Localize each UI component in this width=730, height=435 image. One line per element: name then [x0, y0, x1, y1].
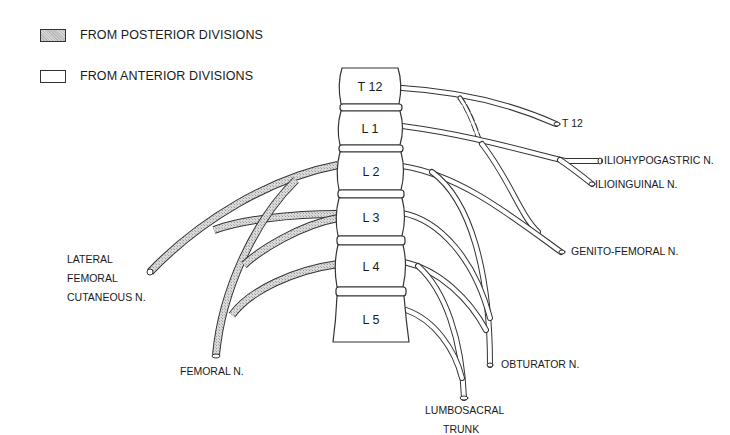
- disc-l4-l5: [336, 287, 406, 296]
- lateral-femoral-end: [147, 269, 153, 275]
- lumbar-plexus-diagram: T 12 L 1 L 2 L 3 L 4 L 5: [0, 0, 730, 435]
- label-lumbosacral-1: LUMBOSACRAL: [425, 401, 504, 420]
- femoral-end: [212, 354, 220, 358]
- vertebral-column: [333, 68, 409, 342]
- vertebra-label-l5: L 5: [363, 313, 380, 327]
- obturator-end: [487, 363, 493, 367]
- label-obturator: OBTURATOR N.: [501, 355, 579, 374]
- nerve-l2-genitofemoral: [402, 166, 561, 252]
- vertebra-label-l2: L 2: [363, 165, 380, 179]
- disc-l1-l2: [339, 145, 403, 152]
- label-lumbosacral-2: TRUNK: [443, 420, 479, 435]
- disc-l2-l3: [338, 190, 404, 198]
- vertebra-label-l4: L 4: [363, 260, 380, 274]
- nerve-l4-femoral: [232, 264, 338, 315]
- label-t12: T 12: [562, 114, 583, 133]
- vertebra-label-t12: T 12: [358, 80, 383, 94]
- label-ilioinguinal: ILIOINGUINAL N.: [595, 175, 677, 194]
- label-iliohypogastric: ILIOHYPOGASTRIC N.: [604, 151, 714, 170]
- nerve-t12: [402, 88, 556, 124]
- label-lateral-3: CUTANEOUS N.: [67, 288, 146, 307]
- label-genitofemoral: GENITO-FEMORAL N.: [571, 242, 678, 261]
- t12-end: [554, 122, 560, 126]
- vertebra-label-l1: L 1: [362, 122, 379, 136]
- posterior-nerves: [147, 165, 338, 358]
- iliohypogastric-end: [598, 158, 602, 164]
- genitofemoral-end: [559, 250, 565, 254]
- vertebra-label-l3: L 3: [363, 211, 380, 225]
- lumbosacral-end: [460, 396, 468, 400]
- disc-t12-l1: [340, 104, 402, 111]
- label-femoral: FEMORAL N.: [180, 362, 244, 381]
- disc-l3-l4: [337, 236, 405, 245]
- label-lateral-2: FEMORAL: [67, 269, 118, 288]
- label-lateral-1: LATERAL: [67, 250, 113, 269]
